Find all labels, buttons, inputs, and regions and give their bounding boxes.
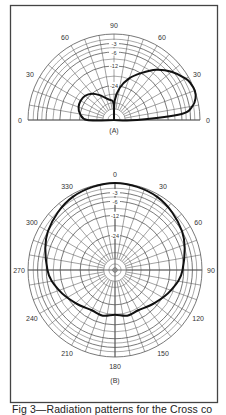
chart-b-label: (B) (110, 377, 119, 385)
azimuth-tick-label: 300 (26, 219, 38, 226)
azimuth-tick-label: 60 (194, 219, 202, 226)
db-ring-label: -24 (110, 83, 118, 89)
azimuth-tick-label: 0 (113, 171, 117, 178)
azimuth-tick-label: 240 (26, 315, 38, 322)
angle-tick-label: 30 (193, 71, 201, 78)
azimuth-tick-label: 270 (13, 267, 25, 274)
db-ring-label: -3 (113, 190, 118, 196)
azimuth-tick-label: 120 (192, 315, 204, 322)
angle-tick-label: 60 (61, 34, 69, 41)
pattern-back-lobe (79, 94, 114, 121)
azimuth-tick-label: 150 (157, 350, 169, 357)
db-ring-label: -6 (112, 50, 117, 56)
azimuth-tick-label: 330 (61, 183, 73, 190)
db-ring-label: -3 (112, 41, 117, 47)
db-ring-label: -6 (113, 199, 118, 205)
angle-tick-label: 0 (18, 117, 22, 124)
angle-tick-label: 90 (110, 22, 118, 29)
db-ring-label: -12 (111, 213, 119, 219)
azimuth-tick-label: 30 (159, 183, 167, 190)
azimuth-tick-label: 210 (61, 350, 73, 357)
angle-tick-label: 0 (206, 117, 210, 124)
radiation-pattern-figure: -3-6-12-24030609060300(A) -3-6-12-240306… (0, 0, 226, 415)
db-ring-label: -24 (111, 233, 119, 239)
db-ring-label: -12 (110, 63, 118, 69)
figure-caption: Fig 3—Radiation patterns for the Cross c… (12, 403, 212, 415)
chart-a-label: (A) (109, 127, 118, 135)
azimuth-tick-label: 90 (207, 267, 215, 274)
chart-a-elevation-pattern: -3-6-12-24030609060300(A) (18, 22, 210, 135)
angle-tick-label: 30 (26, 71, 34, 78)
azimuth-tick-label: 180 (109, 363, 121, 370)
chart-b-azimuth-pattern: -3-6-12-24030609012015018021024027030033… (13, 171, 215, 386)
angle-tick-label: 60 (158, 34, 166, 41)
